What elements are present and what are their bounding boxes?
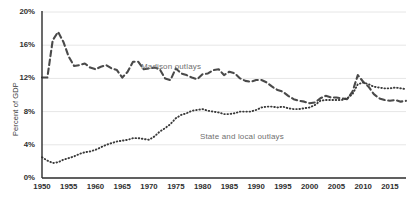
chart-container: Percent of GDP 0%4%8%12%16%20% 195019551… [0,0,412,200]
plot-area [0,0,412,200]
series-layer [42,32,406,163]
series-label-0: Madison outlays [141,62,201,71]
gridlines [42,12,406,145]
series-line-0 [42,32,406,103]
series-label-1: State and local outlays [200,132,284,141]
series-line-1 [42,83,406,164]
